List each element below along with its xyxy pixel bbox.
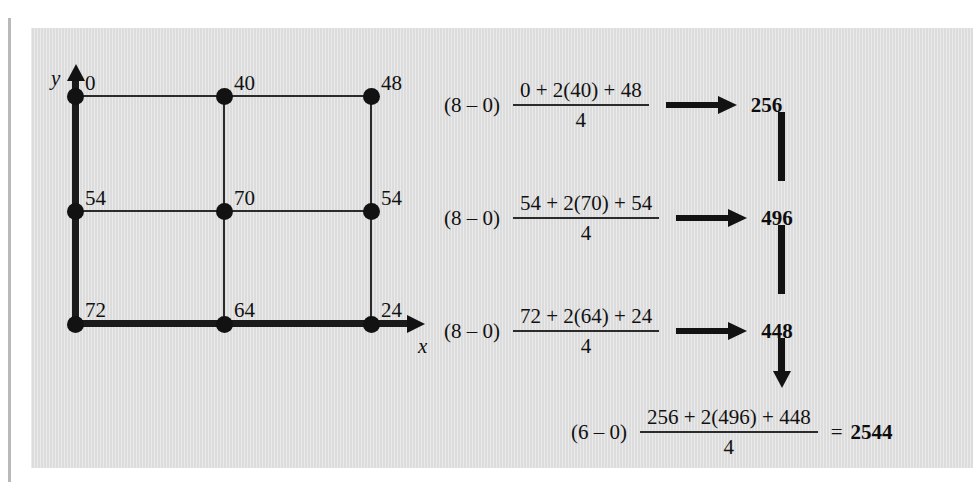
fraction-numerator: 54 + 2(70) + 54 [513, 191, 659, 217]
fraction-denominator: 4 [576, 106, 587, 132]
right-arrow-icon [666, 96, 737, 114]
grid-node-label: 54 [85, 188, 106, 209]
fraction-numerator: 256 + 2(496) + 448 [640, 405, 818, 431]
y-axis-label: y [51, 68, 60, 89]
fraction-denominator: 4 [581, 332, 592, 358]
fraction-denominator: 4 [581, 219, 592, 245]
chain-segment-448-to-total [778, 338, 785, 371]
y-axis-arrowhead-icon [67, 64, 85, 81]
grid-node-label: 48 [381, 73, 402, 94]
grid-node [363, 88, 380, 105]
final-equation-prefix: (6 – 0) [571, 420, 627, 445]
grid-node [216, 88, 233, 105]
grid-node [67, 316, 84, 333]
figure-panel: y x 0 40 48 54 70 54 [31, 28, 973, 468]
final-equation-fraction: 256 + 2(496) + 448 4 [640, 405, 818, 459]
equals-sign: = [831, 420, 843, 445]
grid-node-label: 70 [234, 188, 255, 209]
page-left-rule [8, 18, 11, 482]
grid-node-label: 72 [85, 300, 106, 321]
fraction-denominator: 4 [724, 433, 735, 459]
row-equation-prefix: (8 – 0) [444, 93, 500, 118]
grid-node [216, 203, 233, 220]
final-equation: (6 – 0) 256 + 2(496) + 448 4 = 2544 [571, 405, 893, 459]
chain-segment-256-to-496 [778, 112, 785, 181]
grid-node-label: 24 [381, 300, 402, 321]
right-arrow-icon [676, 322, 747, 340]
arrow-shaft [676, 215, 728, 221]
figure-page: y x 0 40 48 54 70 54 [0, 0, 973, 486]
row-result-value: 496 [761, 206, 793, 231]
grid-node [67, 88, 84, 105]
row-equation-fraction: 54 + 2(70) + 54 4 [513, 191, 659, 245]
chain-arrowhead-icon [773, 371, 791, 388]
arrow-shaft [666, 102, 718, 108]
row-equation-fraction: 0 + 2(40) + 48 4 [513, 78, 649, 132]
final-total-value: 2544 [851, 420, 893, 445]
grid-node-label: 54 [381, 188, 402, 209]
grid-node [67, 203, 84, 220]
row-equation-prefix: (8 – 0) [444, 206, 500, 231]
arrow-head [718, 96, 737, 114]
row-equation: (8 – 0) 72 + 2(64) + 24 4 448 [444, 304, 793, 358]
row-equation: (8 – 0) 0 + 2(40) + 48 4 256 [444, 78, 782, 132]
arrow-shaft [676, 328, 728, 334]
row-result-value: 448 [761, 319, 793, 344]
fraction-numerator: 72 + 2(64) + 24 [513, 304, 659, 330]
grid-node [363, 203, 380, 220]
grid-node-label: 64 [234, 300, 255, 321]
row-equation-prefix: (8 – 0) [444, 319, 500, 344]
grid-node-label: 0 [85, 73, 96, 94]
right-arrow-icon [676, 209, 747, 227]
grid-node [363, 316, 380, 333]
grid-node [216, 316, 233, 333]
fraction-numerator: 0 + 2(40) + 48 [513, 78, 649, 104]
x-axis-label: x [418, 336, 427, 357]
grid-node-label: 40 [234, 73, 255, 94]
arrow-head [728, 322, 747, 340]
row-equation: (8 – 0) 54 + 2(70) + 54 4 496 [444, 191, 793, 245]
chain-segment-496-to-448 [778, 225, 785, 294]
row-equation-fraction: 72 + 2(64) + 24 4 [513, 304, 659, 358]
grid-diagram: y x 0 40 48 54 70 54 [31, 28, 451, 368]
x-axis-arrowhead-icon [407, 315, 425, 333]
arrow-head [728, 209, 747, 227]
